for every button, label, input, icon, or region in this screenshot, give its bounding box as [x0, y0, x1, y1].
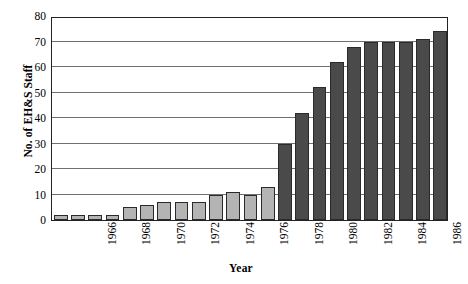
bar	[123, 207, 137, 220]
bar	[192, 202, 206, 220]
bar	[244, 195, 258, 221]
bar	[347, 47, 361, 220]
bar-chart: No. of EH&S Staff 80706050403020100 1966…	[0, 0, 468, 284]
bar	[140, 205, 154, 220]
bar	[209, 195, 223, 221]
x-tick-label: 1968	[140, 222, 152, 262]
bar	[313, 87, 327, 220]
x-tick-label: 1966	[106, 222, 118, 262]
bar	[261, 187, 275, 220]
y-tick-label: 10	[18, 190, 46, 201]
y-tick-label: 60	[18, 62, 46, 73]
y-tick-label: 80	[18, 11, 46, 22]
x-tick-label: 1982	[382, 222, 394, 262]
bar	[295, 113, 309, 220]
x-tick-label: 1974	[244, 222, 256, 262]
bar	[175, 202, 189, 220]
x-tick-label: 1972	[209, 222, 221, 262]
bar	[88, 215, 102, 220]
y-tick-label: 30	[18, 139, 46, 150]
y-tick-label: 50	[18, 88, 46, 99]
x-tick-label: 1986	[451, 222, 463, 262]
y-axis-tick-labels: 80706050403020100	[18, 11, 46, 227]
y-tick-label: 40	[18, 113, 46, 124]
plot-area	[51, 17, 448, 221]
bar	[416, 39, 430, 220]
bar	[433, 31, 447, 220]
x-axis-title: Year	[0, 262, 468, 274]
y-tick-label: 70	[18, 37, 46, 48]
bar	[399, 42, 413, 221]
x-tick-label: 1980	[347, 222, 359, 262]
y-tick-label: 0	[18, 215, 46, 226]
bars-group	[52, 18, 447, 220]
bar	[278, 144, 292, 221]
x-tick-label: 1970	[175, 222, 187, 262]
bar	[71, 215, 85, 220]
bar	[106, 215, 120, 220]
bar	[382, 42, 396, 221]
bar	[330, 62, 344, 220]
bar	[157, 202, 171, 220]
bar	[226, 192, 240, 220]
x-tick-label: 1978	[313, 222, 325, 262]
x-axis-tick-labels: 1966196819701972197419761978198019821984…	[51, 222, 448, 264]
bar	[54, 215, 68, 220]
x-tick-label: 1984	[416, 222, 428, 262]
y-tick-label: 20	[18, 164, 46, 175]
bar	[364, 42, 378, 221]
x-tick-label: 1976	[278, 222, 290, 262]
